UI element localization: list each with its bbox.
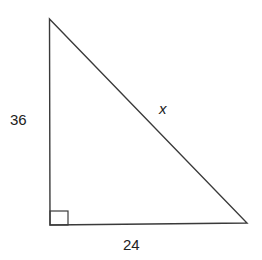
triangle-figure (0, 0, 262, 260)
right-triangle (50, 19, 248, 225)
horizontal-leg-label: 24 (123, 236, 140, 253)
right-angle-marker (50, 211, 68, 225)
hypotenuse-label: x (159, 100, 167, 117)
vertical-leg-label: 36 (10, 111, 27, 128)
